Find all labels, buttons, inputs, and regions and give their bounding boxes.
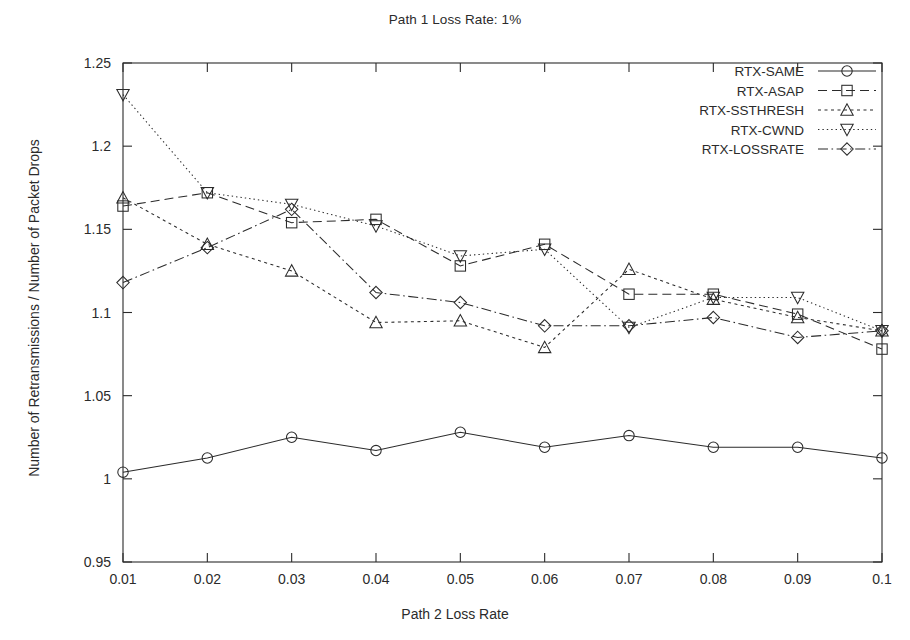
y-tick-label: 1.25 — [84, 55, 111, 71]
x-tick-label: 0.03 — [278, 571, 305, 587]
series-line — [123, 209, 882, 337]
marker-triangle-down — [791, 292, 803, 303]
legend-label-rtx-asap: RTX-ASAP — [737, 84, 804, 99]
y-tick-label: 1.15 — [84, 221, 111, 237]
marker-triangle-up — [201, 238, 213, 249]
x-tick-label: 0.09 — [784, 571, 811, 587]
marker-diamond — [454, 296, 466, 308]
y-tick-label: 1.05 — [84, 388, 111, 404]
marker-diamond — [201, 241, 213, 253]
series-line — [123, 198, 882, 348]
y-tick-label: 1.2 — [92, 138, 112, 154]
y-tick-label: 1.1 — [92, 305, 112, 321]
y-tick-label: 1 — [103, 471, 111, 487]
y-tick-label: 0.95 — [84, 554, 111, 570]
x-tick-label: 0.04 — [362, 571, 389, 587]
x-tick-label: 0.02 — [194, 571, 221, 587]
series-line — [123, 432, 882, 472]
series-rtx-ssthresh — [117, 192, 888, 353]
legend: RTX-SAMERTX-ASAPRTX-SSTHRESHRTX-CWNDRTX-… — [699, 64, 876, 157]
x-tick-label: 0.01 — [109, 571, 136, 587]
x-tick-label: 0.08 — [700, 571, 727, 587]
x-tick-label: 0.1 — [872, 571, 892, 587]
x-tick-label: 0.05 — [447, 571, 474, 587]
legend-label-rtx-lossrate: RTX-LOSSRATE — [702, 142, 804, 157]
plot-frame — [123, 63, 882, 562]
series-rtx-same — [118, 427, 887, 477]
legend-label-rtx-same: RTX-SAME — [734, 64, 804, 79]
series-line — [123, 193, 882, 349]
marker-triangle-down — [370, 221, 382, 232]
legend-label-rtx-ssthresh: RTX-SSTHRESH — [699, 103, 804, 118]
chart-figure: Path 1 Loss Rate: 1% Number of Retransmi… — [0, 0, 910, 640]
series-rtx-asap — [118, 188, 887, 355]
plot-area: 0.9511.051.11.151.21.250.010.020.030.040… — [0, 0, 910, 640]
x-tick-label: 0.06 — [531, 571, 558, 587]
marker-triangle-up — [454, 315, 466, 326]
legend-label-rtx-cwnd: RTX-CWND — [731, 123, 804, 138]
marker-triangle-down — [285, 199, 297, 210]
series-rtx-lossrate — [117, 203, 888, 343]
x-tick-label: 0.07 — [615, 571, 642, 587]
marker-triangle-down — [841, 124, 853, 135]
